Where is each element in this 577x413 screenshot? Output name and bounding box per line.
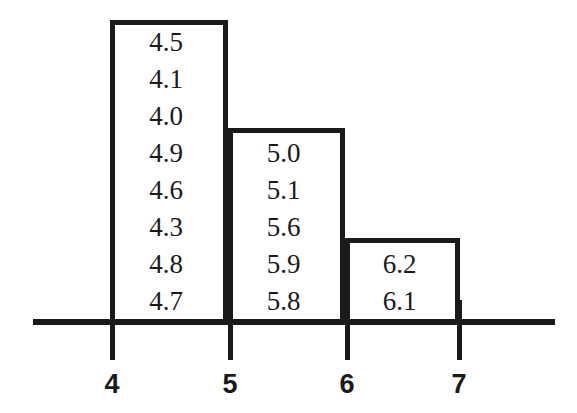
data-value: 4.7 bbox=[115, 283, 223, 320]
data-value: 4.9 bbox=[115, 135, 223, 172]
axis-tick-5 bbox=[228, 300, 233, 360]
histogram-bar-4-5: 4.5 4.1 4.0 4.9 4.6 4.3 4.8 4.7 bbox=[110, 20, 228, 322]
data-value: 6.2 bbox=[350, 246, 455, 283]
data-value: 5.1 bbox=[233, 172, 340, 209]
axis-tick-7 bbox=[457, 300, 462, 360]
data-value: 4.6 bbox=[115, 172, 223, 209]
data-value: 5.8 bbox=[233, 283, 340, 320]
histogram-bar-6-7: 6.2 6.1 bbox=[345, 238, 460, 322]
histogram-chart: 4.5 4.1 4.0 4.9 4.6 4.3 4.8 4.7 5.0 5.1 … bbox=[0, 0, 577, 413]
axis-label-4: 4 bbox=[92, 368, 132, 400]
axis-label-6: 6 bbox=[327, 368, 367, 400]
plot-area: 4.5 4.1 4.0 4.9 4.6 4.3 4.8 4.7 5.0 5.1 … bbox=[0, 0, 577, 413]
data-value: 4.1 bbox=[115, 61, 223, 98]
bar-value-stack-6-7: 6.2 6.1 bbox=[350, 242, 455, 322]
axis-tick-6 bbox=[345, 300, 350, 360]
axis-label-7: 7 bbox=[439, 368, 479, 400]
data-value: 5.0 bbox=[233, 135, 340, 172]
histogram-bar-5-6: 5.0 5.1 5.6 5.9 5.8 bbox=[228, 128, 345, 322]
data-value: 4.3 bbox=[115, 209, 223, 246]
bar-value-stack-4-5: 4.5 4.1 4.0 4.9 4.6 4.3 4.8 4.7 bbox=[115, 24, 223, 322]
data-value: 5.9 bbox=[233, 246, 340, 283]
data-value: 6.1 bbox=[350, 283, 455, 320]
axis-label-5: 5 bbox=[210, 368, 250, 400]
data-value: 4.0 bbox=[115, 98, 223, 135]
data-value: 4.5 bbox=[115, 24, 223, 61]
data-value: 4.8 bbox=[115, 246, 223, 283]
data-value: 5.6 bbox=[233, 209, 340, 246]
axis-tick-4 bbox=[110, 300, 115, 360]
bar-value-stack-5-6: 5.0 5.1 5.6 5.9 5.8 bbox=[233, 132, 340, 322]
